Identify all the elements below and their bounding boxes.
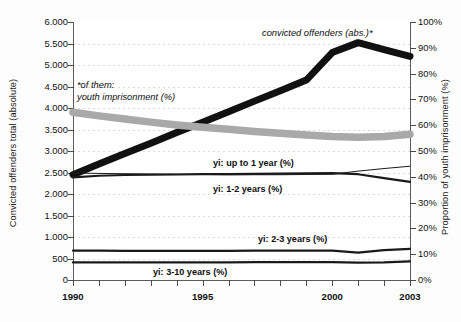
series-line-5 (73, 261, 410, 262)
series-line-4 (73, 249, 410, 253)
annotation-yi-3-10-years: yi: 3-10 years (%) (153, 267, 227, 277)
annotation-convicted-offenders: convicted offenders (abs.)* (262, 28, 373, 38)
annotation-yi-up-to-1-year: yi: up to 1 year (%) (213, 158, 294, 168)
annotation-of-them: *of them: (77, 80, 114, 90)
chart-container: Convicted offenders total (absolute) Pro… (0, 0, 461, 322)
series-line-3 (73, 173, 410, 182)
series-line-1 (73, 112, 410, 137)
annotation-yi-1-2-years: yi: 1-2 years (%) (213, 184, 282, 194)
series-line-0 (73, 43, 410, 175)
annotation-youth-imprisonment: youth imprisonment (%) (77, 92, 175, 102)
annotation-yi-2-3-years: yi: 2-3 years (%) (258, 234, 327, 244)
